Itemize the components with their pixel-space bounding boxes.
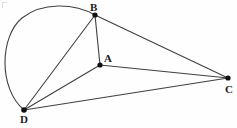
vertex-label-D: D: [20, 114, 28, 125]
segment-AD: [24, 65, 100, 110]
segments-group: [24, 15, 228, 110]
segment-AC: [100, 65, 228, 78]
vertex-label-C: C: [225, 84, 233, 95]
vertex-dot-A: [97, 62, 102, 67]
figure-canvas: [0, 0, 237, 128]
segment-BD: [24, 15, 95, 110]
vertex-dot-D: [21, 107, 27, 113]
vertex-label-B: B: [90, 2, 98, 13]
vertices-group: [21, 12, 230, 112]
vertex-label-A: A: [104, 53, 112, 64]
segment-DC: [24, 78, 228, 110]
segment-BA: [95, 15, 100, 65]
geometry-figure: B A C D: [0, 0, 237, 128]
segment-BC: [95, 15, 228, 78]
vertex-dot-B: [92, 12, 97, 17]
vertex-dot-C: [225, 75, 230, 80]
